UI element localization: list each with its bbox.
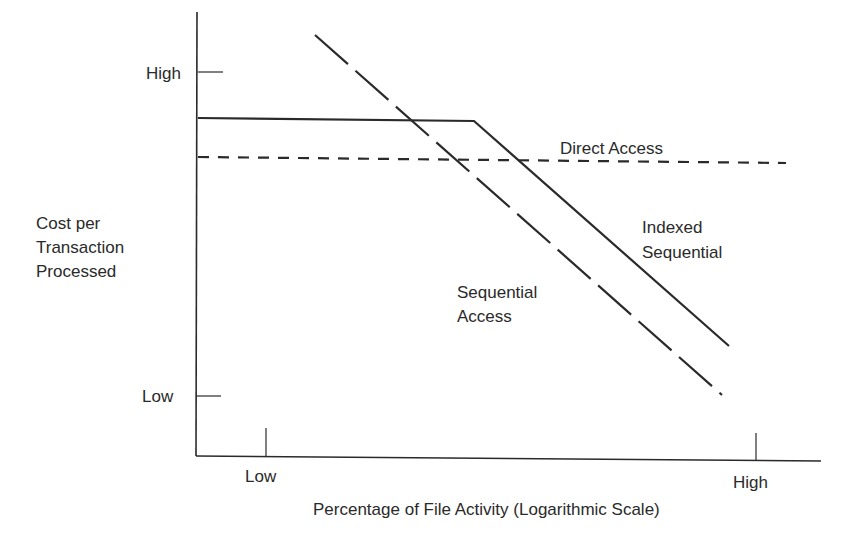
y-tick-label-low: Low [142, 387, 174, 406]
series-label-direct-access: Direct Access [560, 139, 663, 158]
axes [196, 12, 821, 461]
x-tick-label-high: High [733, 473, 768, 492]
series-label-indexed-line2: Sequential [642, 243, 722, 262]
series-label-sequential-line1: Sequential [457, 283, 537, 302]
y-axis [196, 12, 197, 456]
series-label-sequential-line2: Access [457, 307, 512, 326]
y-tick-label-high: High [146, 64, 181, 83]
y-axis-label: Cost per Transaction Processed [36, 214, 124, 281]
x-axis-label: Percentage of File Activity (Logarithmic… [313, 500, 660, 519]
series-label-indexed-line1: Indexed [642, 218, 703, 237]
x-axis [196, 456, 821, 461]
x-tick-label-low: Low [245, 467, 277, 486]
y-axis-label-line1: Cost per [36, 214, 101, 233]
line-sequential-access [315, 35, 722, 395]
chart: High Low Low High Cost per Transaction P… [0, 0, 848, 538]
y-axis-label-line3: Processed [36, 262, 116, 281]
series-lines [198, 35, 786, 395]
line-direct-access [198, 157, 786, 163]
y-axis-label-line2: Transaction [36, 238, 124, 257]
